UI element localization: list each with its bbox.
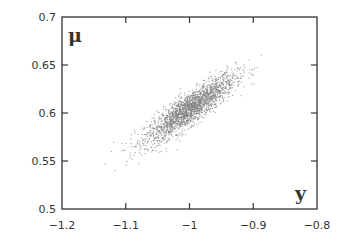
x-tick-label: −1 <box>181 219 197 232</box>
y-tick-labels: 0.50.550.60.650.7 <box>32 11 57 216</box>
y-tick-label: 0.5 <box>39 203 57 216</box>
scatter-points <box>105 54 263 171</box>
x-tick-label: −0.8 <box>304 219 331 232</box>
y-tick-label: 0.6 <box>39 107 57 120</box>
y-tick-label: 0.55 <box>32 155 57 168</box>
x-tick-label: −1.1 <box>112 219 139 232</box>
x-tick-labels: −1.2−1.1−1−0.9−0.8 <box>49 219 331 232</box>
x-axis-label: y <box>294 182 307 204</box>
y-tick-label: 0.7 <box>39 11 57 24</box>
x-tick-label: −0.9 <box>240 219 267 232</box>
x-tick-label: −1.2 <box>49 219 76 232</box>
y-axis-label: μ <box>68 24 82 46</box>
y-tick-label: 0.65 <box>32 59 57 72</box>
scatter-chart: −1.2−1.1−1−0.9−0.8 0.50.550.60.650.7 μ y <box>0 0 342 251</box>
